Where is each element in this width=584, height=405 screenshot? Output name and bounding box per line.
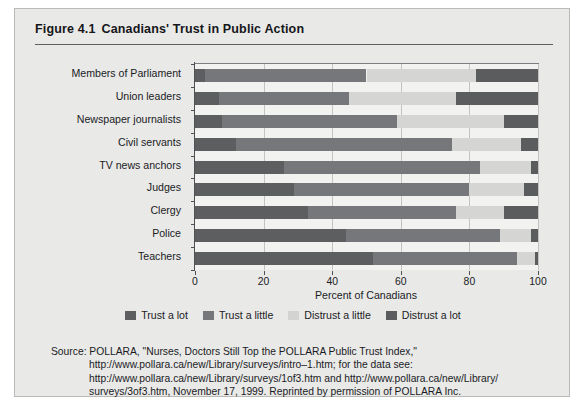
y-axis-tick bbox=[191, 133, 195, 134]
y-axis-tick bbox=[191, 64, 195, 65]
bar-segment bbox=[456, 206, 504, 219]
bar-segment bbox=[531, 161, 538, 174]
y-axis-tick-label: Civil servants bbox=[118, 132, 181, 153]
bar-row bbox=[195, 229, 538, 242]
chart-container: Members of ParliamentUnion leadersNewspa… bbox=[15, 53, 571, 303]
bar-segment bbox=[504, 206, 538, 219]
legend-label: Distrust a little bbox=[304, 309, 371, 321]
bar-segment bbox=[456, 92, 538, 105]
legend-item: Trust a lot bbox=[125, 309, 188, 321]
y-axis-tick bbox=[191, 224, 195, 225]
x-axis-tick-label: 80 bbox=[464, 276, 476, 287]
bar-segment bbox=[195, 252, 373, 265]
bar-segment bbox=[531, 229, 538, 242]
y-axis-tick-label: Members of Parliament bbox=[71, 63, 181, 84]
source-text: POLLARA, "Nurses, Doctors Still Top the … bbox=[89, 346, 417, 357]
bar-segment bbox=[294, 183, 469, 196]
bar-row bbox=[195, 183, 538, 196]
plot-area: 020406080100 bbox=[195, 63, 539, 270]
y-axis-tick bbox=[191, 270, 195, 271]
figure-title-text: Canadians' Trust in Public Action bbox=[102, 22, 305, 36]
bar-segment bbox=[535, 252, 538, 265]
y-axis-tick-label: Union leaders bbox=[116, 86, 181, 107]
y-axis-tick bbox=[191, 201, 195, 202]
bar-segment bbox=[222, 115, 397, 128]
bar-segment bbox=[524, 183, 538, 196]
bar-row bbox=[195, 161, 538, 174]
y-axis-tick bbox=[191, 87, 195, 88]
bar-segment bbox=[346, 229, 500, 242]
bar-segment bbox=[308, 206, 455, 219]
page-title: Figure 4.1Canadians' Trust in Public Act… bbox=[35, 22, 304, 36]
chart-legend: Trust a lotTrust a littleDistrust a litt… bbox=[15, 309, 571, 321]
y-axis-tick-label: Clergy bbox=[150, 200, 181, 221]
bar-segment bbox=[195, 183, 294, 196]
legend-swatch-icon bbox=[386, 311, 397, 320]
legend-item: Distrust a little bbox=[288, 309, 371, 321]
x-axis-tick bbox=[538, 271, 539, 275]
bar-segment bbox=[476, 69, 538, 82]
y-axis-category-labels: Members of ParliamentUnion leadersNewspa… bbox=[35, 63, 181, 269]
legend-label: Trust a little bbox=[219, 309, 273, 321]
title-divider bbox=[35, 44, 553, 45]
bar-row bbox=[195, 252, 538, 265]
bar-row bbox=[195, 138, 538, 151]
legend-label: Trust a lot bbox=[141, 309, 188, 321]
x-axis-tick bbox=[401, 271, 402, 275]
x-axis-tick bbox=[332, 271, 333, 275]
x-axis-tick-label: 100 bbox=[529, 276, 546, 287]
bar-row bbox=[195, 69, 538, 82]
figure-number: Figure 4.1 bbox=[35, 22, 96, 36]
bar-segment bbox=[469, 183, 524, 196]
source-line: Source: POLLARA, "Nurses, Doctors Still … bbox=[51, 345, 551, 358]
bar-segment bbox=[205, 69, 366, 82]
source-label: Source: bbox=[51, 346, 89, 357]
legend-label: Distrust a lot bbox=[402, 309, 461, 321]
legend-item: Distrust a lot bbox=[386, 309, 461, 321]
source-line: http://www.pollara.ca/new/Library/survey… bbox=[51, 372, 551, 385]
bar-segment bbox=[195, 229, 346, 242]
x-axis-tick bbox=[264, 271, 265, 275]
bar-row bbox=[195, 206, 538, 219]
legend-item: Trust a little bbox=[203, 309, 273, 321]
x-axis-tick-label: 0 bbox=[192, 276, 198, 287]
x-axis-tick-label: 40 bbox=[326, 276, 338, 287]
bar-segment bbox=[504, 115, 538, 128]
y-axis-tick-label: Police bbox=[152, 223, 181, 244]
bar-segment bbox=[349, 92, 455, 105]
figure-panel: Figure 4.1Canadians' Trust in Public Act… bbox=[14, 8, 570, 397]
x-axis-tick-label: 20 bbox=[258, 276, 270, 287]
bar-segment bbox=[195, 92, 219, 105]
bar-segment bbox=[480, 161, 531, 174]
bar-segment bbox=[521, 138, 538, 151]
y-axis-tick-label: Judges bbox=[147, 177, 181, 198]
bar-segment bbox=[284, 161, 480, 174]
source-line: surveys/3of3.htm, November 17, 1999. Rep… bbox=[51, 385, 551, 398]
source-note: Source: POLLARA, "Nurses, Doctors Still … bbox=[51, 345, 551, 398]
y-axis-tick bbox=[191, 110, 195, 111]
legend-swatch-icon bbox=[203, 311, 214, 320]
bar-segment bbox=[500, 229, 531, 242]
x-axis-tick-label: 60 bbox=[395, 276, 407, 287]
bar-segment bbox=[219, 92, 349, 105]
gridline bbox=[538, 64, 539, 270]
bar-segment bbox=[517, 252, 534, 265]
x-axis-tick bbox=[469, 271, 470, 275]
legend-swatch-icon bbox=[288, 311, 299, 320]
y-axis-tick-label: Teachers bbox=[138, 246, 181, 267]
x-axis-title: Percent of Canadians bbox=[315, 289, 417, 301]
bar-segment bbox=[195, 138, 236, 151]
bar-row bbox=[195, 115, 538, 128]
bar-segment bbox=[195, 206, 308, 219]
bar-segment bbox=[397, 115, 503, 128]
bar-segment bbox=[367, 69, 477, 82]
y-axis-tick-label: TV news anchors bbox=[99, 155, 181, 176]
bar-row bbox=[195, 92, 538, 105]
bar-segment bbox=[195, 69, 205, 82]
bar-segment bbox=[236, 138, 452, 151]
source-line: http://www.pollara.ca/new/Library/survey… bbox=[51, 358, 551, 371]
x-axis-tick bbox=[195, 271, 196, 275]
y-axis-tick bbox=[191, 178, 195, 179]
y-axis-tick bbox=[191, 156, 195, 157]
bar-segment bbox=[452, 138, 521, 151]
